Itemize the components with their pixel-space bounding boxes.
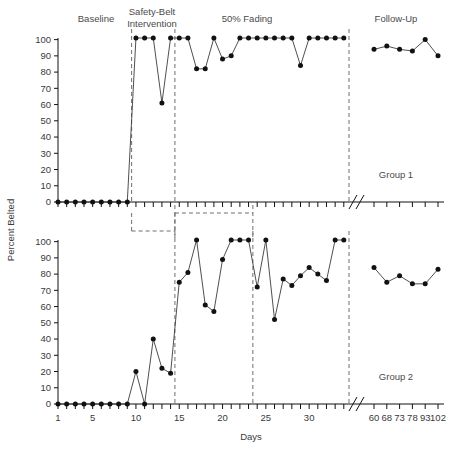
data-point [159, 366, 164, 371]
x-tick-label-followup: 60 [369, 412, 380, 423]
x-tick-label: 20 [217, 412, 228, 423]
data-point [307, 36, 312, 41]
y-tick-label: 90 [40, 252, 51, 263]
data-point [56, 200, 61, 205]
data-point [307, 265, 312, 270]
data-point [133, 369, 138, 374]
data-point [229, 53, 234, 58]
data-point [281, 276, 286, 281]
data-point [194, 238, 199, 243]
data-point [272, 317, 277, 322]
data-point [298, 63, 303, 68]
y-tick-label: 70 [40, 83, 51, 94]
x-tick-label-followup: 93 [420, 412, 431, 423]
x-tick-label-followup: 73 [394, 412, 405, 423]
data-point [203, 66, 208, 71]
bottom-phase-dividers [175, 231, 349, 404]
phase-connector-brackets [132, 205, 253, 240]
data-point [90, 200, 95, 205]
phase-label-intervention-line2: Intervention [127, 18, 177, 29]
chart-svg: Baseline Safety-Belt Intervention 50% Fa… [0, 0, 452, 459]
y-tick-label: 90 [40, 50, 51, 61]
data-point [436, 53, 441, 58]
y-tick-label: 60 [40, 301, 51, 312]
phase-label-followup: Follow-Up [375, 13, 418, 24]
phase-label-baseline: Baseline [78, 13, 114, 24]
data-point [177, 36, 182, 41]
data-point [73, 200, 78, 205]
data-point [220, 57, 225, 62]
data-point [99, 402, 104, 407]
y-tick-label: 50 [40, 317, 51, 328]
top-x-ticks [58, 202, 438, 207]
data-point [289, 283, 294, 288]
data-point [220, 257, 225, 262]
data-point [185, 36, 190, 41]
bottom-x-ticks [58, 404, 438, 409]
data-point [263, 36, 268, 41]
data-point [410, 48, 415, 53]
data-point [116, 402, 121, 407]
data-point [397, 47, 402, 52]
top-phase-dividers [132, 29, 349, 202]
data-line [257, 240, 344, 320]
data-point [116, 200, 121, 205]
data-point [64, 200, 69, 205]
data-point [384, 280, 389, 285]
x-tick-label-followup: 68 [382, 412, 393, 423]
x-tick-label: 15 [174, 412, 185, 423]
data-point [151, 36, 156, 41]
y-tick-label: 30 [40, 350, 51, 361]
data-point [211, 309, 216, 314]
data-line [374, 268, 438, 284]
y-tick-label: 70 [40, 285, 51, 296]
data-point [237, 36, 242, 41]
data-point [315, 272, 320, 277]
top-panel: 0102030405060708090100 Group 1 [35, 29, 444, 209]
data-point [81, 402, 86, 407]
data-point [410, 281, 415, 286]
y-tick-label: 0 [46, 196, 51, 207]
y-tick-label: 40 [40, 131, 51, 142]
data-point [194, 66, 199, 71]
data-point [203, 302, 208, 307]
data-point [64, 402, 69, 407]
data-point [423, 281, 428, 286]
y-tick-label: 20 [40, 366, 51, 377]
data-point [372, 47, 377, 52]
data-point [324, 36, 329, 41]
data-point [159, 100, 164, 105]
y-tick-label: 80 [40, 268, 51, 279]
y-tick-label: 100 [35, 236, 51, 247]
data-point [168, 371, 173, 376]
y-tick-label: 20 [40, 164, 51, 175]
y-tick-label: 80 [40, 66, 51, 77]
y-tick-label: 50 [40, 115, 51, 126]
data-line [136, 38, 171, 103]
data-point [272, 36, 277, 41]
data-point [372, 265, 377, 270]
data-point [142, 402, 147, 407]
y-tick-label: 0 [46, 398, 51, 409]
bottom-panel: 0102030405060708090100 15101520253060687… [35, 231, 446, 423]
x-tick-label-followup: 78 [407, 412, 418, 423]
x-tick-label: 1 [55, 412, 60, 423]
data-point [397, 273, 402, 278]
data-point [324, 278, 329, 283]
x-tick-label: 25 [261, 412, 272, 423]
y-tick-label: 10 [40, 382, 51, 393]
bottom-y-ticks: 0102030405060708090100 [35, 236, 58, 409]
data-point [298, 273, 303, 278]
data-line [179, 38, 344, 69]
data-point [246, 36, 251, 41]
safety-belt-chart: Baseline Safety-Belt Intervention 50% Fa… [0, 0, 452, 459]
data-point [315, 36, 320, 41]
data-point [237, 238, 242, 243]
y-tick-label: 40 [40, 333, 51, 344]
data-point [333, 36, 338, 41]
bottom-x-tick-labels: 1510152025306068737893102 [55, 412, 446, 423]
x-tick-label: 30 [304, 412, 315, 423]
data-point [99, 200, 104, 205]
x-tick-label-followup: 102 [430, 412, 446, 423]
data-line [374, 40, 438, 56]
